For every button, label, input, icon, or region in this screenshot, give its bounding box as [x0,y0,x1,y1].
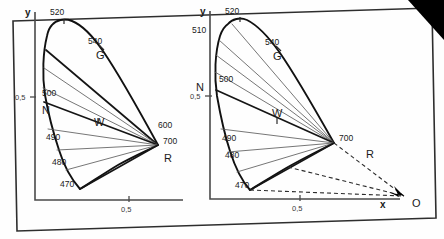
page-corner-artifact [408,0,444,40]
left-label-540: 540 [88,36,102,46]
figure-container: y 520 540 G 500 N W 490 480 470 600 700 … [0,0,444,239]
right-x-axis-label: x [380,199,386,210]
left-label-N: N [42,104,50,116]
left-label-470: 470 [60,179,74,189]
left-label-520: 520 [50,7,64,17]
right-y-axis-label: y [200,6,206,17]
right-label-480: 480 [225,150,239,160]
right-label-540: 540 [265,37,279,47]
outer-frame [13,8,436,231]
right-label-510: 510 [192,25,206,35]
right-x-tick-0-5: 0,5 [292,204,302,213]
left-label-W: W [94,116,105,128]
left-label-500: 500 [42,88,56,98]
right-label-490: 490 [222,133,236,143]
left-x-tick-0-5: 0,5 [121,205,131,214]
right-label-G: G [273,50,282,62]
left-y-axis-label: y [25,7,31,18]
right-label-520: 520 [225,6,239,16]
left-label-G: G [96,49,105,61]
left-label-480: 480 [52,157,66,167]
right-label-R: R [366,148,374,160]
left-label-600: 600 [158,120,172,130]
right-label-O: O [412,197,421,209]
figure-svg: y 520 540 G 500 N W 490 480 470 600 700 … [0,0,444,239]
right-label-500: 500 [219,74,233,84]
right-dashed-convergence [250,143,404,197]
cie-chromaticity-right: y 520 510 540 G 500 N W 490 480 470 700 … [190,6,421,213]
right-label-470: 470 [235,180,249,190]
cie-chromaticity-left: y 520 540 G 500 N W 490 480 470 600 700 … [15,7,183,214]
right-label-W: W [272,107,283,119]
left-label-490: 490 [46,132,60,142]
right-label-700: 700 [339,133,353,143]
left-label-700: 700 [163,136,177,146]
left-y-tick-0-5: 0,5 [15,93,25,102]
right-y-tick-0-5: 0,5 [190,92,200,101]
left-label-R: R [164,152,172,164]
